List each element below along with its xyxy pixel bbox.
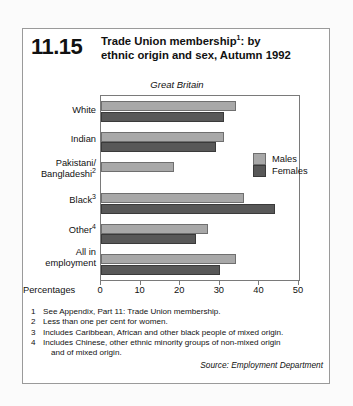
category-axis-labels: White Indian Pakistani/ Bangladeshi2 Bla…	[23, 95, 100, 281]
bar-white-males	[101, 101, 236, 111]
chart-title-line1-end: : by	[241, 35, 261, 47]
chart-title-line2: ethnic origin and sex, Autumn 1992	[101, 48, 323, 62]
bar-indian-females	[101, 142, 216, 152]
footnotes: 1 See Appendix, Part 11: Trade Union mem…	[31, 307, 325, 370]
bar-other-females	[101, 234, 196, 244]
legend-swatch-females-icon	[253, 165, 266, 177]
footnote-number: 1	[31, 307, 36, 317]
bar-pakistani-bangladeshi-males	[101, 162, 174, 172]
category-label-black: Black3	[20, 195, 96, 206]
source-note: Source: Employment Department	[31, 360, 325, 370]
legend-swatch-males-icon	[253, 153, 266, 165]
bar-white-females	[101, 112, 224, 122]
footnote-text: Includes Caribbean, African and other bl…	[43, 328, 283, 337]
chart-title-line1: Trade Union membership	[101, 35, 237, 47]
footnote-marker-4: 4	[92, 223, 96, 230]
x-tick-label-10: 10	[128, 285, 152, 295]
footnote-text: Includes Chinese, other ethnic minority …	[43, 338, 281, 347]
category-label-text: Bangladeshi	[41, 169, 92, 179]
footnote-marker-2: 2	[92, 166, 96, 173]
footnote-2: 2 Less than one per cent for women.	[31, 317, 325, 327]
category-label-text: White	[72, 105, 96, 115]
category-label-indian: Indian	[20, 134, 96, 145]
plot-axes: Males Females	[100, 95, 300, 281]
category-label-text: All in	[76, 247, 96, 257]
footnote-number: 4	[31, 338, 36, 348]
x-tick-label-30: 30	[207, 285, 231, 295]
footnote-text: Less than one per cent for women.	[43, 317, 168, 326]
region-label: Great Britain	[23, 79, 331, 90]
chart-header: 11.15 Trade Union membership1: by ethnic…	[23, 29, 331, 77]
category-label-text: Black	[69, 195, 92, 205]
category-label-pakistani-bangladeshi: Pakistani/ Bangladeshi2	[20, 158, 96, 179]
x-axis-title: Percentages	[23, 285, 75, 295]
bar-other-males	[101, 224, 208, 234]
bar-all-in-employment-females	[101, 265, 220, 275]
footnote-3: 3 Includes Caribbean, African and other …	[31, 328, 325, 338]
x-tick-label-40: 40	[246, 285, 270, 295]
x-tick-label-0: 0	[88, 285, 112, 295]
bar-black-females	[101, 204, 275, 214]
bar-all-in-employment-males	[101, 254, 236, 264]
chart-card: 11.15 Trade Union membership1: by ethnic…	[22, 28, 330, 384]
footnote-text: See Appendix, Part 11: Trade Union membe…	[43, 307, 221, 316]
bar-black-males	[101, 193, 244, 203]
plot-area: White Indian Pakistani/ Bangladeshi2 Bla…	[23, 95, 331, 295]
footnote-number: 3	[31, 328, 36, 338]
category-label-all-in-employment: All in employment	[20, 247, 96, 268]
category-label-text: employment	[45, 258, 96, 268]
category-label-other: Other4	[20, 225, 96, 236]
legend-label-females: Females	[272, 165, 308, 177]
footnote-marker-3: 3	[92, 193, 96, 200]
chart-title: Trade Union membership1: by ethnic origi…	[101, 34, 323, 62]
legend-label-males: Males	[272, 153, 297, 165]
figure-page: 11.15 Trade Union membership1: by ethnic…	[0, 0, 353, 406]
category-label-text: Other	[69, 225, 92, 235]
bar-indian-males	[101, 132, 224, 142]
footnote-text-continued: and of mixed origin.	[43, 348, 325, 358]
figure-number: 11.15	[31, 34, 82, 60]
footnote-number: 2	[31, 317, 36, 327]
category-label-text: Indian	[71, 134, 96, 144]
category-label-white: White	[20, 105, 96, 116]
footnote-4: 4 Includes Chinese, other ethnic minorit…	[31, 338, 325, 359]
x-tick-label-50: 50	[286, 285, 310, 295]
x-tick-label-20: 20	[167, 285, 191, 295]
category-label-text: Pakistani/	[56, 158, 96, 168]
footnote-1: 1 See Appendix, Part 11: Trade Union mem…	[31, 307, 325, 317]
